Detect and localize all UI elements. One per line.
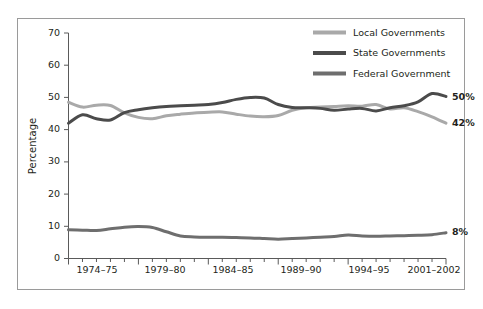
chart-legend: Local Governments State Governments Fede… <box>313 27 451 79</box>
legend-label-local: Local Governments <box>353 27 445 38</box>
legend-label-federal: Federal Government <box>353 68 451 79</box>
y-tick-label-10: 10 <box>48 220 60 231</box>
x-tick-label-1989-90: 1989–90 <box>280 264 321 275</box>
y-tick-marks <box>64 33 69 259</box>
end-label-federal-8: 8% <box>452 226 469 237</box>
end-label-state-50: 50% <box>452 91 475 102</box>
data-series-group <box>69 93 447 239</box>
line-chart: 70 60 50 40 30 20 10 0 Percentage 1974–7… <box>0 0 483 309</box>
y-axis-title: Percentage <box>27 118 38 174</box>
end-label-local-42: 42% <box>452 117 475 128</box>
series-line-federal-government <box>69 227 447 240</box>
y-tick-label-50: 50 <box>48 91 60 102</box>
x-tick-label-1984-85: 1984–85 <box>212 264 253 275</box>
y-tick-label-20: 20 <box>48 188 60 199</box>
figure-container: 70 60 50 40 30 20 10 0 Percentage 1974–7… <box>0 0 483 309</box>
y-tick-label-70: 70 <box>48 27 60 38</box>
x-tick-label-1994-95: 1994–95 <box>348 264 389 275</box>
series-line-state-governments <box>69 93 447 123</box>
legend-label-state: State Governments <box>353 47 445 58</box>
y-tick-label-30: 30 <box>48 155 60 166</box>
y-tick-label-40: 40 <box>48 123 60 134</box>
x-tick-label-2001-2002: 2001–2002 <box>407 264 460 275</box>
y-tick-label-0: 0 <box>54 252 60 263</box>
x-tick-label-1974-75: 1974–75 <box>76 264 117 275</box>
y-tick-label-60: 60 <box>48 59 60 70</box>
x-tick-label-1979-80: 1979–80 <box>144 264 185 275</box>
